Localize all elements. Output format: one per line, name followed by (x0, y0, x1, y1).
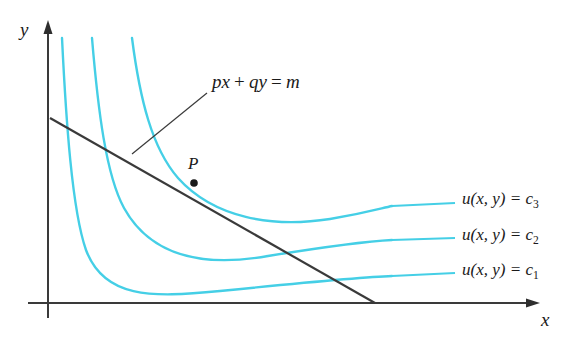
curve-label-c2-subscript: 2 (533, 234, 539, 247)
budget-line-label: px+qy=m (212, 72, 300, 91)
budget-label-x: x (222, 71, 230, 92)
curve-label-leader-c3 (392, 203, 455, 206)
y-axis (44, 20, 53, 318)
curve-label-c3-text: u(x, y) = c (462, 189, 533, 208)
budget-label-p: p (212, 71, 222, 92)
y-axis-label: y (20, 20, 28, 39)
curve-label-c1-subscript: 1 (533, 269, 539, 282)
curve-label-c1: u(x, y) = c1 (462, 261, 539, 282)
x-axis (28, 299, 540, 308)
curve-label-leader-c2 (392, 238, 455, 240)
y-axis-arrowhead (44, 20, 53, 34)
curve-label-c2-text: u(x, y) = c (462, 225, 533, 244)
curve-label-leader-c1 (392, 273, 455, 276)
x-axis-label: x (541, 310, 549, 329)
curve-label-c3-subscript: 3 (533, 198, 539, 211)
budget-label-q: q (249, 71, 259, 92)
budget-label-plus: + (234, 71, 245, 92)
budget-label-y: y (259, 71, 267, 92)
budget-line (50, 118, 375, 303)
curve-label-c1-text: u(x, y) = c (462, 260, 533, 279)
indifference-curve-figure: y x px+qy=m P u(x, y) = c3 u(x, y) = c2 … (0, 0, 579, 340)
figure-canvas (0, 0, 579, 340)
tangency-point-label: P (188, 155, 198, 172)
budget-label-m: m (286, 71, 300, 92)
curve-label-c3: u(x, y) = c3 (462, 190, 539, 211)
curve-label-c2: u(x, y) = c2 (462, 226, 539, 247)
x-axis-arrowhead (526, 299, 540, 308)
indifference-curve-c3 (132, 38, 392, 222)
budget-label-equals: = (271, 71, 282, 92)
tangency-point-marker (190, 179, 198, 187)
